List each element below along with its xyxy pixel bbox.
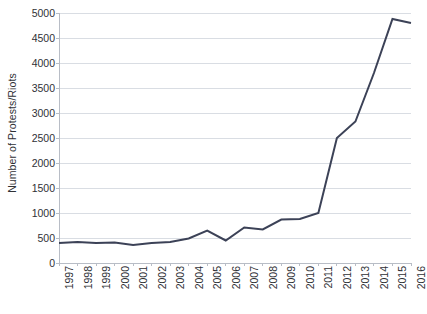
x-tick-label: 2014 [378, 266, 390, 289]
y-tick-label: 1000 [32, 207, 55, 219]
x-tick-label: 2005 [211, 266, 223, 289]
y-tick-label: 3500 [32, 82, 55, 94]
y-tick-label: 0 [49, 257, 55, 269]
plot-area [59, 13, 411, 263]
x-tick-label: 2002 [156, 266, 168, 289]
y-tick-label: 2500 [32, 132, 55, 144]
x-tick-label: 2015 [396, 266, 408, 289]
y-axis-title-label: Number of Protests/Riots [6, 73, 18, 193]
y-tick-label: 4000 [32, 57, 55, 69]
y-tick-label: 2000 [32, 157, 55, 169]
y-axis-tick-labels: 0500100015002000250030003500400045005000 [22, 0, 58, 270]
x-tick-label: 1999 [100, 266, 112, 289]
y-tick-label: 1500 [32, 182, 55, 194]
x-tick-label: 2006 [230, 266, 242, 289]
gridlines [59, 13, 411, 263]
x-axis-tick-labels: 1997199819992000200120022003200420052006… [59, 266, 411, 312]
plot-svg [59, 13, 411, 263]
x-tick-label: 2010 [304, 266, 316, 289]
y-tick-label: 4500 [32, 32, 55, 44]
x-tick-label: 2000 [119, 266, 131, 289]
x-tick-label: 1998 [82, 266, 94, 289]
x-tick-label: 1997 [63, 266, 75, 289]
x-tick-label: 2016 [415, 266, 427, 289]
x-tick-label: 2011 [322, 266, 334, 289]
x-tick-label: 2004 [193, 266, 205, 289]
x-tick-label: 2001 [137, 266, 149, 289]
x-tick-label: 2008 [267, 266, 279, 289]
x-tick-label: 2009 [285, 266, 297, 289]
y-tick-label: 500 [37, 232, 55, 244]
x-tick-label: 2012 [341, 266, 353, 289]
x-tick-label: 2013 [359, 266, 371, 289]
x-tick-label: 2007 [248, 266, 260, 289]
y-tick-label: 3000 [32, 107, 55, 119]
data-series-line [59, 19, 411, 245]
y-tick-label: 5000 [32, 7, 55, 19]
x-tick-label: 2003 [174, 266, 186, 289]
y-axis-title: Number of Protests/Riots [0, 0, 24, 266]
